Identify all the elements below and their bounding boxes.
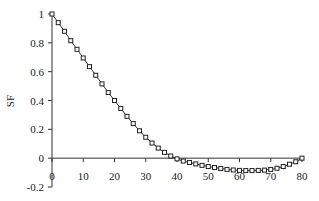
data-point-marker (106, 91, 110, 95)
data-point-marker (69, 39, 73, 43)
x-tick-label: 10 (78, 170, 90, 182)
data-point-marker (119, 106, 123, 110)
data-point-marker (169, 154, 173, 158)
data-point-marker (113, 99, 117, 103)
data-point-marker (88, 65, 92, 69)
y-tick-label: 1 (39, 8, 45, 20)
data-point-marker (163, 150, 167, 154)
data-point-marker (300, 156, 304, 160)
y-tick-label: -0.2 (27, 181, 44, 193)
x-tick-label: 40 (172, 170, 184, 182)
y-axis: -0.200.20.40.60.81 (27, 8, 52, 193)
data-point-marker (225, 167, 229, 171)
data-point-marker (194, 162, 198, 166)
x-tick-label: 80 (297, 170, 309, 182)
data-point-marker (138, 129, 142, 133)
data-point-marker (238, 168, 242, 172)
data-point-marker (213, 166, 217, 170)
data-point-marker (81, 56, 85, 60)
y-tick-label: 0 (39, 152, 45, 164)
data-point-marker (288, 162, 292, 166)
x-tick-label: 50 (203, 170, 215, 182)
y-tick-label: 0.2 (30, 123, 44, 135)
data-point-marker (263, 168, 267, 172)
data-point-marker (200, 163, 204, 167)
data-point-marker (175, 157, 179, 161)
y-tick-label: 0.6 (30, 66, 44, 78)
data-point-marker (188, 160, 192, 164)
data-series (50, 12, 304, 173)
x-tick-label: 30 (140, 170, 152, 182)
data-point-marker (56, 21, 60, 25)
data-point-marker (231, 168, 235, 172)
data-point-marker (256, 168, 260, 172)
data-point-marker (206, 165, 210, 169)
data-point-marker (294, 160, 298, 164)
data-point-marker (244, 169, 248, 173)
data-point-marker (275, 166, 279, 170)
data-point-marker (63, 29, 67, 33)
y-axis-title: SF (4, 95, 16, 107)
y-tick-label: 0.4 (30, 95, 44, 107)
data-point-marker (219, 167, 223, 171)
x-tick-label: 20 (109, 170, 121, 182)
data-point-marker (156, 146, 160, 150)
x-tick-label: 0 (49, 170, 55, 182)
sf-line-chart: -0.200.20.40.60.81 01020304050607080 SF (0, 0, 319, 201)
y-tick-label: 0.8 (30, 37, 44, 49)
data-point-marker (94, 73, 98, 77)
data-point-marker (100, 82, 104, 86)
data-point-marker (75, 47, 79, 51)
data-point-marker (50, 12, 54, 16)
data-point-marker (281, 165, 285, 169)
data-point-marker (181, 159, 185, 163)
data-point-marker (144, 135, 148, 139)
data-point-marker (125, 114, 129, 118)
data-point-marker (131, 122, 135, 126)
data-point-marker (150, 141, 154, 145)
data-point-marker (250, 169, 254, 173)
data-point-marker (269, 167, 273, 171)
